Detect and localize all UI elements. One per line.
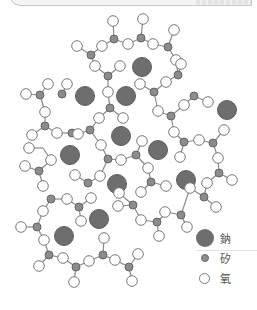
oxygen-atom xyxy=(21,89,32,100)
oxygen-atom xyxy=(213,153,224,164)
oxygen-atom xyxy=(185,183,196,194)
oxygen-atom xyxy=(219,125,230,136)
oxygen-atom xyxy=(34,261,45,272)
oxygen-atom xyxy=(97,41,108,52)
oxygen-atom xyxy=(194,135,205,146)
oxygen-atom xyxy=(16,222,27,233)
silicon-atom xyxy=(174,71,182,79)
silicon-atom xyxy=(72,263,80,271)
oxygen-atom xyxy=(46,155,57,166)
oxygen-atom xyxy=(43,79,54,90)
legend-label-oxygen: 氧 xyxy=(220,270,231,286)
oxygen-atom xyxy=(138,14,149,25)
oxygen-atom xyxy=(96,140,107,151)
silicon-atom xyxy=(45,251,53,259)
oxygen-atom xyxy=(161,181,172,192)
oxygen-atom-icon xyxy=(199,273,210,284)
sodium-atom xyxy=(133,58,152,77)
oxygen-atom xyxy=(133,249,144,260)
silicon-atom xyxy=(132,151,140,159)
legend-label-sodium: 鈉 xyxy=(220,230,231,246)
oxygen-atom xyxy=(211,202,222,213)
silicon-atom xyxy=(215,169,223,177)
oxygen-atom xyxy=(175,152,186,163)
sodium-atom xyxy=(90,210,109,229)
silicon-atom xyxy=(36,91,44,99)
oxygen-atom xyxy=(27,130,38,141)
oxygen-atom xyxy=(135,79,146,90)
oxygen-atom xyxy=(84,256,95,267)
oxygen-atom xyxy=(62,79,73,90)
sodium-atom xyxy=(117,87,136,106)
oxygen-atom xyxy=(90,61,101,72)
oxygen-atom xyxy=(113,201,124,212)
silicon-atom xyxy=(104,72,112,80)
oxygen-atom xyxy=(40,107,51,118)
oxygen-atom xyxy=(123,39,134,50)
oxygen-atom xyxy=(136,215,147,226)
silicon-atom xyxy=(84,179,92,187)
oxygen-atom xyxy=(24,143,35,154)
oxygen-atom xyxy=(154,231,165,242)
oxygen-atom xyxy=(179,100,190,111)
oxygen-atom xyxy=(182,222,193,233)
silicon-atom xyxy=(47,195,55,203)
silicon-atom xyxy=(209,139,217,147)
silicon-atom-icon xyxy=(201,254,209,262)
oxygen-atom xyxy=(137,136,148,147)
oxygen-atom xyxy=(127,276,138,287)
legend-item-oxygen: 氧 xyxy=(196,268,256,288)
silicon-atom xyxy=(167,112,175,120)
oxygen-atom xyxy=(103,87,114,98)
silicon-atom xyxy=(180,138,188,146)
sodium-atom xyxy=(76,87,95,106)
oxygen-atom xyxy=(115,61,126,72)
oxygen-atom xyxy=(52,128,63,139)
silicon-atom xyxy=(41,122,49,130)
silicon-atom xyxy=(150,88,158,96)
silicon-atom xyxy=(125,263,133,271)
oxygen-atom xyxy=(176,59,187,70)
oxygen-atom xyxy=(62,194,73,205)
oxygen-atom xyxy=(161,77,172,88)
oxygen-atom xyxy=(94,113,105,124)
sodium-atom xyxy=(112,127,131,146)
oxygen-atom xyxy=(110,255,121,266)
oxygen-atom xyxy=(20,161,31,172)
oxygen-atom xyxy=(148,39,159,50)
silicon-atom xyxy=(147,178,155,186)
oxygen-atom xyxy=(169,127,180,138)
silicon-atom xyxy=(86,126,94,134)
sodium-atom xyxy=(55,227,74,246)
oxygen-atom xyxy=(114,188,125,199)
sodium-atom-icon xyxy=(196,229,214,247)
oxygen-atom xyxy=(73,129,84,140)
legend-label-silicon: 矽 xyxy=(220,250,231,266)
silicon-atom xyxy=(58,90,66,98)
silicon-atom xyxy=(137,34,145,42)
sodium-atom xyxy=(61,146,80,165)
oxygen-atom xyxy=(169,25,180,36)
oxygen-atom xyxy=(76,216,87,227)
silicon-atom xyxy=(35,167,43,175)
oxygen-atom xyxy=(153,106,164,117)
oxygen-atom xyxy=(160,207,171,218)
oxygen-atom xyxy=(227,175,238,186)
oxygen-atom xyxy=(99,233,110,244)
oxygen-atom xyxy=(108,16,119,27)
silicon-atom xyxy=(33,223,41,231)
oxygen-atom xyxy=(86,193,97,204)
oxygen-atom xyxy=(69,277,80,288)
silicon-atom xyxy=(177,211,185,219)
oxygen-atom xyxy=(38,206,49,217)
silicon-atom xyxy=(190,92,198,100)
silicon-atom xyxy=(110,35,118,43)
legend: 鈉 矽 氧 xyxy=(196,228,256,288)
oxygen-atom xyxy=(118,113,129,124)
oxygen-atom xyxy=(136,187,147,198)
sodium-atom xyxy=(149,141,168,160)
legend-item-sodium: 鈉 xyxy=(196,228,256,248)
silicon-atom xyxy=(104,155,112,163)
sodium-atom xyxy=(218,101,237,120)
silicon-atom xyxy=(75,203,83,211)
